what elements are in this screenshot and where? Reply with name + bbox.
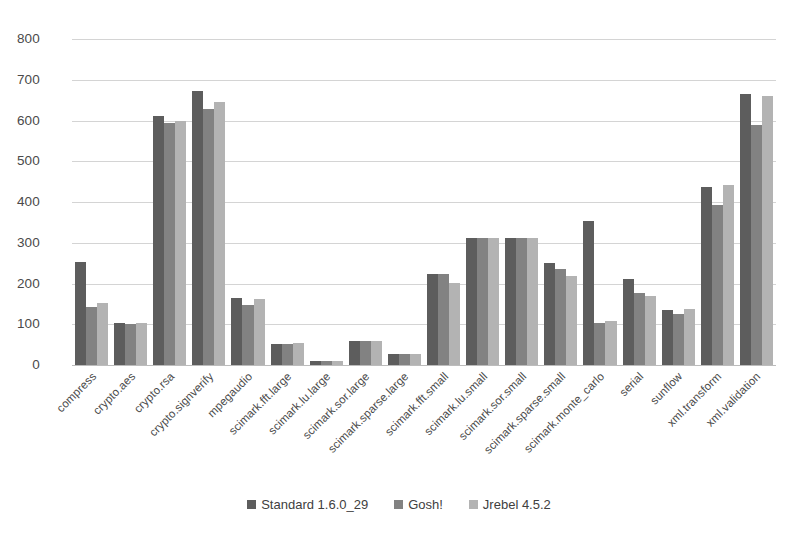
bar [153, 116, 164, 365]
bar [164, 123, 175, 365]
bar [712, 205, 723, 365]
x-axis-label-cell: compress [72, 366, 111, 486]
bar-chart: 8007006005004003002001000 compresscrypto… [0, 0, 798, 541]
bar [527, 238, 538, 365]
y-tick-label-100: 100 [0, 317, 40, 331]
bar [75, 262, 86, 365]
bar-group [150, 39, 189, 365]
y-tick-label-400: 400 [0, 195, 40, 209]
bar [310, 361, 321, 365]
bar [438, 274, 449, 365]
legend-item[interactable]: Standard 1.6.0_29 [247, 498, 368, 511]
x-axis-label-cell: xml.validation [737, 366, 776, 486]
bar [723, 185, 734, 365]
x-axis-label-cell: crypto.signverify [189, 366, 228, 486]
bar [701, 187, 712, 365]
bar-group [189, 39, 228, 365]
legend-label: Standard 1.6.0_29 [261, 498, 368, 511]
bar [673, 314, 684, 365]
bar-group [111, 39, 150, 365]
y-tick-label-300: 300 [0, 236, 40, 250]
y-tick-label-200: 200 [0, 277, 40, 291]
legend-label: Gosh! [408, 498, 443, 511]
bar [86, 307, 97, 365]
x-axis-label-cell: serial [620, 366, 659, 486]
legend-item[interactable]: Jrebel 4.5.2 [469, 498, 551, 511]
legend-item[interactable]: Gosh! [394, 498, 443, 511]
bar [192, 91, 203, 365]
bar [488, 238, 499, 365]
bar-group [698, 39, 737, 365]
bar [740, 94, 751, 365]
bar [214, 102, 225, 365]
legend-swatch-icon [394, 500, 403, 509]
y-tick-label-0: 0 [0, 358, 40, 372]
x-axis-label-text: serial [617, 370, 645, 398]
bar-group [72, 39, 111, 365]
legend-label: Jrebel 4.5.2 [483, 498, 551, 511]
x-axis-label-cell: scimark.monte_carlo [580, 366, 619, 486]
legend-swatch-icon [247, 500, 256, 509]
bar [175, 121, 186, 366]
x-axis-label-cell: crypto.aes [111, 366, 150, 486]
legend-swatch-icon [469, 500, 478, 509]
x-axis-labels: compresscrypto.aescrypto.rsacrypto.signv… [72, 366, 776, 486]
y-tick-label-700: 700 [0, 73, 40, 87]
bar-group [737, 39, 776, 365]
chart-legend: Standard 1.6.0_29Gosh!Jrebel 4.5.2 [0, 498, 798, 511]
x-axis-label-cell: sunflow [659, 366, 698, 486]
y-tick-label-800: 800 [0, 32, 40, 46]
bar [203, 109, 214, 365]
y-tick-label-500: 500 [0, 154, 40, 168]
x-axis-label-cell: xml.transform [698, 366, 737, 486]
y-tick-label-600: 600 [0, 114, 40, 128]
bar [555, 269, 566, 365]
